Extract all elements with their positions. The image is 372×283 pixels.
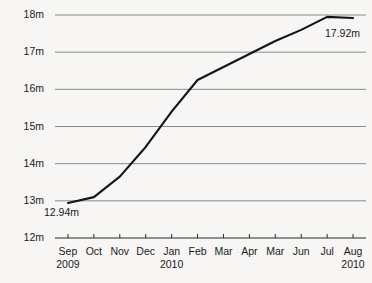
chart-plot-area xyxy=(0,0,372,283)
gridlines xyxy=(55,15,366,201)
last-point-label: 17.92m xyxy=(325,27,360,39)
x-axis-tick-label: Aug xyxy=(333,245,372,257)
y-axis-tick-label: 15m xyxy=(2,121,44,132)
y-axis-tick-label: 12m xyxy=(2,232,44,243)
y-axis-tick-label: 17m xyxy=(2,46,44,57)
y-axis-tick-label: 16m xyxy=(2,83,44,94)
line-chart: 12m13m14m15m16m17m18m Sep2009OctNovDecJa… xyxy=(0,0,372,283)
first-point-label: 12.94m xyxy=(44,206,79,218)
y-axis-tick-label: 18m xyxy=(2,9,44,20)
y-axis-tick-label: 14m xyxy=(2,158,44,169)
data-series-line xyxy=(68,17,353,203)
x-axis-year-label: 2010 xyxy=(152,258,192,270)
x-axis-year-label: 2010 xyxy=(333,258,372,270)
x-axis-year-label: 2009 xyxy=(48,258,88,270)
y-axis-tick-label: 13m xyxy=(2,195,44,206)
